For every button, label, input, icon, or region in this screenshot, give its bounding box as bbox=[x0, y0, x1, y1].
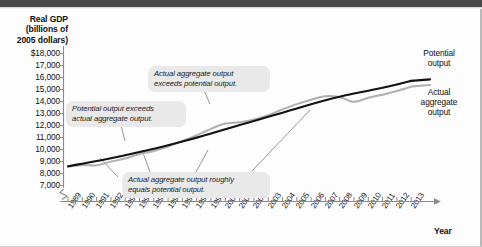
series-label-potential-output: Potential output bbox=[411, 49, 467, 69]
callout-actual-equals-potential: Actual aggregate output roughly equals p… bbox=[122, 172, 270, 198]
figure-panel: Real GDP (billions of 2005 dollars) Year… bbox=[0, 0, 482, 247]
series-label-actual-aggregate-output: Actual aggregate output bbox=[409, 88, 469, 117]
callout-actual-exceeds-potential: Actual aggregate output exceeds potentia… bbox=[148, 66, 270, 92]
callout-potential-exceeds-actual: Potential output exceeds actual aggregat… bbox=[66, 101, 186, 127]
